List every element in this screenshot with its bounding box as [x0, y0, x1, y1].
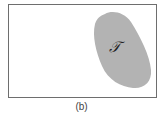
- region-label: 𝒯: [109, 38, 120, 56]
- region-t-shape: [0, 0, 163, 117]
- figure-caption: (b): [0, 101, 163, 112]
